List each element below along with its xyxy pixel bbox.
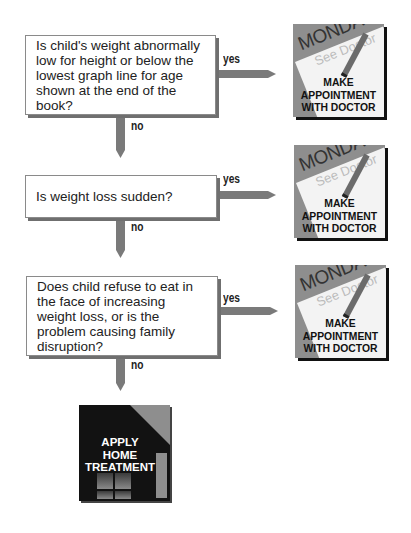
yes-arrow-2 <box>218 191 276 199</box>
no-arrow-1 <box>116 117 125 158</box>
question-box-3: Does child refuse to eat in the face of … <box>26 276 218 356</box>
home-treatment-card: APPLYHOMETREATMENT <box>79 405 170 501</box>
window-icon <box>115 491 131 499</box>
question-box-2: Is weight loss sudden? <box>25 175 217 218</box>
yes-label-3: yes <box>223 291 240 305</box>
card-action: MAKEAPPOINTMENTWITH DOCTOR <box>298 76 380 114</box>
question-text-2: Is weight loss sudden? <box>36 189 173 204</box>
question-text-3: Does child refuse to eat in the face of … <box>37 279 207 354</box>
no-arrow-3 <box>116 357 125 391</box>
doctor-card-1: MONDAY See Doctor MAKEAPPOINTMENTWITH DO… <box>293 24 384 117</box>
window-icon <box>115 473 131 489</box>
no-label-3: no <box>131 358 143 372</box>
no-label-1: no <box>131 119 143 133</box>
no-arrow-2 <box>116 220 125 258</box>
window-icon <box>97 491 113 499</box>
doctor-card-3: MONDAY See Doctor MAKEAPPOINTMENTWITH DO… <box>295 265 386 358</box>
card-action: MAKEAPPOINTMENTWITH DOCTOR <box>300 317 382 355</box>
yes-arrow-1 <box>216 70 276 78</box>
question-text-1: Is child's weight abnormally low for hei… <box>36 38 205 113</box>
card-action: MAKEAPPOINTMENTWITH DOCTOR <box>299 197 381 235</box>
window-icon <box>97 473 113 489</box>
question-box-1: Is child's weight abnormally low for hei… <box>25 35 216 115</box>
yes-label-2: yes <box>223 172 240 186</box>
no-label-2: no <box>131 220 143 234</box>
yes-arrow-3 <box>218 307 278 315</box>
home-card-text: APPLYHOMETREATMENT <box>79 436 161 474</box>
yes-label-1: yes <box>223 52 240 66</box>
doctor-card-2: MONDAY See Doctor MAKEAPPOINTMENTWITH DO… <box>294 145 385 238</box>
